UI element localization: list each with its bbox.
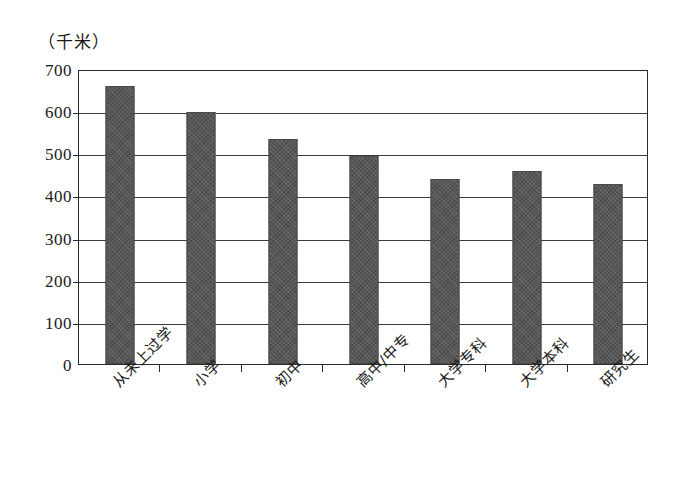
bar-slot — [242, 71, 323, 364]
plot-area — [78, 70, 648, 365]
bar[interactable] — [187, 112, 216, 364]
bar[interactable] — [594, 184, 623, 364]
bar[interactable] — [105, 86, 134, 364]
bar-slot — [568, 71, 649, 364]
bar[interactable] — [431, 179, 460, 364]
bar-chart-figure: （千米） 0100200300400500600700 从未上过学小学初中高中/… — [0, 0, 685, 490]
x-tick-mark — [485, 365, 486, 372]
x-tick-mark — [404, 365, 405, 372]
x-tick-mark — [159, 365, 160, 372]
bar-slot — [405, 71, 486, 364]
bar-slot — [323, 71, 404, 364]
x-tick-mark — [567, 365, 568, 372]
y-axis-unit-label: （千米） — [38, 28, 110, 53]
bar[interactable] — [349, 156, 378, 364]
x-tick-mark — [241, 365, 242, 372]
y-tick-label: 200 — [0, 272, 72, 289]
bar-slot — [160, 71, 241, 364]
y-tick-label: 300 — [0, 230, 72, 247]
y-tick-label: 600 — [0, 104, 72, 121]
bar-slot — [79, 71, 160, 364]
bar[interactable] — [268, 139, 297, 364]
y-axis-tick-labels: 0100200300400500600700 — [0, 70, 72, 365]
x-tick-mark — [322, 365, 323, 372]
y-tick-label: 700 — [0, 62, 72, 79]
y-tick-label: 500 — [0, 146, 72, 163]
bar-slot — [486, 71, 567, 364]
y-tick-label: 400 — [0, 188, 72, 205]
bar[interactable] — [512, 171, 541, 364]
y-tick-label: 0 — [0, 357, 72, 374]
y-tick-label: 100 — [0, 314, 72, 331]
